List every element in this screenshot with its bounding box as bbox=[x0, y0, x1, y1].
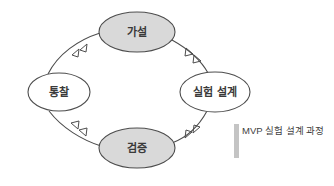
edge-hypothesis-to-experiment bbox=[172, 40, 208, 73]
caption-label: MVP 실험 설계 과정 bbox=[239, 124, 324, 137]
node-hypothesis[interactable]: 가설 bbox=[99, 12, 175, 52]
node-experiment-design-label: 실험 설계 bbox=[193, 85, 236, 98]
edge-experiment-to-verification bbox=[172, 111, 207, 143]
arrowhead-experiment-to-verification bbox=[185, 125, 200, 138]
node-insight-label: 통찰 bbox=[49, 85, 69, 98]
node-verification-label: 검증 bbox=[127, 142, 147, 154]
node-insight[interactable]: 통찰 bbox=[28, 73, 90, 111]
node-hypothesis-label: 가설 bbox=[127, 25, 147, 38]
diagram-canvas: 가설 실험 설계 검증 통찰 MVP 실험 설계 과정 bbox=[0, 0, 334, 186]
mvp-cycle-diagram: 가설 실험 설계 검증 통찰 bbox=[0, 0, 334, 186]
node-experiment-design[interactable]: 실험 설계 bbox=[180, 72, 250, 112]
caption: MVP 실험 설계 과정 bbox=[234, 124, 324, 158]
edge-verification-to-insight bbox=[49, 111, 101, 146]
arrowhead-verification-to-insight bbox=[71, 121, 87, 136]
arrowhead-insight-to-hypothesis bbox=[72, 44, 87, 57]
node-verification[interactable]: 검증 bbox=[99, 128, 175, 168]
